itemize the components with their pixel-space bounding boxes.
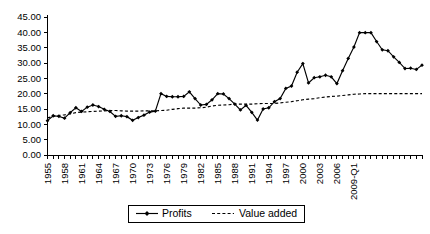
- data-point-marker: [119, 114, 123, 118]
- data-point-marker: [165, 95, 169, 99]
- x-tick-label: 1991: [246, 163, 257, 184]
- legend-label-value-added: Value added: [239, 207, 297, 219]
- x-tick-label: 1973: [144, 163, 155, 184]
- x-tick-label: 1958: [59, 163, 70, 184]
- x-tick-label: 1982: [195, 163, 206, 184]
- data-point-marker: [91, 103, 95, 107]
- x-tick-label: 2000: [297, 163, 308, 184]
- y-axis: 0.005.0010.0015.0020.0025.0030.0035.0040…: [17, 11, 47, 160]
- data-point-marker: [290, 84, 294, 88]
- x-axis: 1955195819611964196719701973197619791982…: [42, 155, 422, 200]
- data-point-marker: [176, 95, 180, 99]
- x-tick-label: 2006: [331, 163, 342, 184]
- x-tick-label: 1979: [178, 163, 189, 184]
- line-chart: 0.005.0010.0015.0020.0025.0030.0035.0040…: [0, 0, 430, 234]
- y-tick-label: 25.00: [17, 73, 41, 84]
- y-tick-label: 35.00: [17, 42, 41, 53]
- data-point-marker: [341, 69, 345, 73]
- legend-label-profits: Profits: [162, 207, 192, 219]
- y-tick-label: 5.00: [23, 134, 42, 145]
- y-tick-label: 15.00: [17, 103, 41, 114]
- x-tick-label: 1997: [280, 163, 291, 184]
- y-tick-label: 10.00: [17, 119, 41, 130]
- series-layer: [46, 31, 424, 123]
- y-tick-label: 20.00: [17, 88, 41, 99]
- data-point-marker: [346, 57, 350, 61]
- x-tick-label: 2009-Q1: [348, 163, 359, 200]
- y-tick-label: 40.00: [17, 27, 41, 38]
- series-line-profits: [48, 33, 423, 121]
- data-point-marker: [170, 95, 174, 99]
- chart-container: 0.005.0010.0015.0020.0025.0030.0035.0040…: [0, 0, 430, 234]
- y-tick-label: 30.00: [17, 57, 41, 68]
- y-tick-label: 45.00: [17, 11, 41, 22]
- x-tick-label: 1985: [212, 163, 223, 184]
- x-tick-label: 1988: [229, 163, 240, 184]
- x-tick-label: 2003: [314, 163, 325, 184]
- x-tick-label: 1976: [161, 163, 172, 184]
- data-point-marker: [352, 45, 356, 49]
- x-tick-label: 1961: [76, 163, 87, 184]
- data-point-marker: [324, 73, 328, 77]
- y-tick-label: 0.00: [23, 149, 42, 160]
- data-point-marker: [409, 66, 413, 70]
- data-point-marker: [363, 31, 367, 35]
- data-point-marker: [159, 92, 163, 96]
- x-tick-label: 1970: [127, 163, 138, 184]
- x-tick-label: 1955: [42, 163, 53, 184]
- x-tick-label: 1994: [263, 163, 274, 184]
- data-point-marker: [358, 31, 362, 35]
- x-tick-label: 1964: [93, 163, 104, 184]
- data-point-marker: [97, 105, 101, 109]
- chart-legend: ProfitsValue added: [128, 205, 304, 222]
- data-point-marker: [318, 75, 322, 79]
- data-point-marker: [136, 116, 140, 120]
- x-tick-label: 1967: [110, 163, 121, 184]
